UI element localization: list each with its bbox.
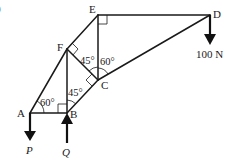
truss-diagram: ) 60° 45° 45° 60° A B C D E F P Q 100 N	[0, 0, 226, 161]
force-label-q: Q	[62, 146, 70, 158]
angle-label-c-left: 45°	[80, 55, 95, 66]
node-label-f: F	[57, 41, 63, 53]
right-angle-marker-c	[86, 74, 92, 86]
clipped-label: )	[0, 2, 1, 15]
node-label-d: D	[213, 8, 221, 20]
right-angle-marker-f	[72, 43, 78, 55]
node-label-e: E	[89, 3, 96, 15]
member-dc	[98, 15, 210, 80]
force-label-d: 100 N	[196, 48, 223, 60]
right-angle-marker-e	[98, 15, 107, 24]
force-label-p: P	[25, 144, 33, 156]
angle-arc-c-left	[89, 67, 98, 71]
angle-label-c-right: 60°	[100, 56, 115, 67]
angle-arc-c-right	[98, 68, 108, 74]
right-angle-marker-b	[58, 104, 67, 113]
angle-arc-b	[67, 100, 76, 104]
member-fe	[67, 15, 98, 49]
node-label-c: C	[101, 79, 108, 91]
node-label-a: A	[17, 107, 25, 119]
angle-label-a: 60°	[40, 97, 55, 108]
arrowhead-d	[204, 34, 216, 45]
node-label-b: B	[70, 108, 77, 120]
arrowhead-p	[24, 131, 36, 141]
angle-label-b: 45°	[68, 87, 83, 98]
